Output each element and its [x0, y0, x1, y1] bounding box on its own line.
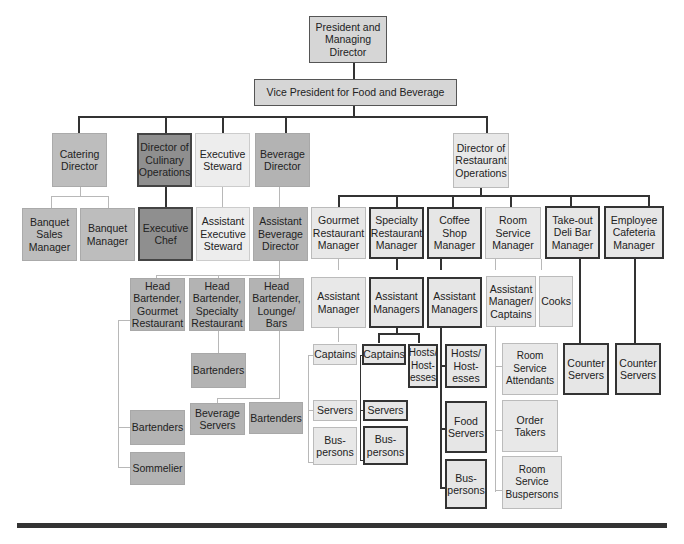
gourmet-buspersons-label: Bus-persons: [316, 434, 354, 459]
head-bartender-lounge-box: Head Bartender, Lounge/ Bars: [249, 278, 304, 331]
coffee-buspersons-box: Bus-persons: [445, 459, 487, 509]
cooks-box: Cooks: [539, 276, 573, 327]
gourmet-manager-label: Gourmet Restaurant Manager: [313, 214, 364, 252]
bartenders-specialty-box: Bartenders: [191, 353, 246, 388]
beverage-servers-box: Beverage Servers: [190, 403, 245, 435]
executive-chef-box: Executive Chef: [138, 207, 193, 261]
gourmet-captains-box: Captains: [313, 344, 357, 365]
cooks-label: Cooks: [541, 295, 571, 308]
gourmet-manager-box: Gourmet Restaurant Manager: [311, 207, 366, 259]
room-service-manager-label: Room Service Manager: [488, 214, 538, 252]
specialty-assistant-label: Assistant Managers: [373, 290, 420, 315]
catering-director-label: Catering Director: [55, 148, 104, 173]
coffee-shop-manager-box: Coffee Shop Manager: [427, 207, 482, 259]
coffee-food-servers-label: Food Servers: [448, 415, 484, 440]
org-chart: President and Managing Director Vice Pre…: [0, 0, 684, 544]
head-bartender-gourmet-box: Head Bartender, Gourmet Restaurant: [130, 278, 185, 331]
beverage-director-label: Beverage Director: [258, 148, 307, 173]
specialty-servers-label: Servers: [367, 404, 403, 417]
bartenders-specialty-label: Bartenders: [193, 364, 244, 377]
sommelier-box: Sommelier: [130, 452, 185, 485]
bartenders-lounge-box: Bartenders: [249, 402, 303, 434]
takeout-deli-manager-box: Take-out Deli Bar Manager: [545, 206, 600, 259]
beverage-servers-label: Beverage Servers: [193, 407, 242, 432]
restaurant-ops-director-box: Director of Restaurant Operations: [453, 133, 509, 188]
president-label: President and Managing Director: [312, 21, 384, 59]
specialty-buspersons-label: Bus-persons: [367, 433, 404, 458]
bartenders-lounge-label: Bartenders: [250, 412, 301, 425]
gourmet-assistant-label: Assistant Manager: [314, 290, 363, 315]
room-service-attendants-box: Room Service Attendants: [502, 343, 558, 395]
specialty-manager-label: Specialty Restaurant Manager: [371, 214, 422, 252]
room-service-manager-box: Room Service Manager: [485, 207, 541, 259]
order-takers-label: Order Takers: [505, 414, 555, 439]
coffee-shop-assistant-box: Assistant Managers: [427, 277, 482, 328]
catering-director-box: Catering Director: [52, 133, 107, 187]
specialty-servers-box: Servers: [363, 400, 408, 421]
specialty-buspersons-box: Bus-persons: [363, 426, 408, 465]
order-takers-box: Order Takers: [502, 400, 558, 452]
bartenders-gourmet-box: Bartenders: [130, 410, 185, 445]
coffee-hosts-label: Hosts/ Host-esses: [449, 347, 483, 385]
room-service-assistant-box: Assistant Manager/ Captains: [486, 276, 536, 327]
sommelier-label: Sommelier: [132, 462, 182, 475]
room-service-buspersons-label: Room Service Buspersons: [505, 464, 559, 502]
banquet-manager-box: Banquet Manager: [80, 208, 135, 261]
specialty-hosts-label: Hosts/ Host-esses: [409, 347, 437, 385]
banquet-sales-manager-label: Banquet Sales Manager: [25, 216, 74, 254]
specialty-captains-box: Captains: [362, 344, 406, 365]
beverage-director-box: Beverage Director: [255, 133, 310, 187]
banquet-manager-label: Banquet Manager: [83, 222, 132, 247]
cafeteria-counter-servers-box: Counter Servers: [615, 343, 661, 395]
head-bartender-lounge-label: Head Bartender, Lounge/ Bars: [252, 280, 301, 330]
coffee-food-servers-box: Food Servers: [445, 401, 487, 453]
coffee-buspersons-label: Bus-persons: [447, 472, 484, 497]
cafeteria-manager-label: Employee Cafeteria Manager: [608, 214, 660, 252]
bartenders-gourmet-label: Bartenders: [132, 421, 183, 434]
takeout-counter-servers-label: Counter Servers: [567, 357, 605, 382]
specialty-captains-label: Captains: [363, 348, 404, 361]
takeout-counter-servers-box: Counter Servers: [563, 343, 609, 395]
assistant-executive-steward-label: Assistant Executive Steward: [199, 215, 247, 253]
assistant-beverage-director-box: Assistant Beverage Director: [253, 207, 308, 261]
culinary-director-box: Director of Culinary Operations: [137, 133, 192, 187]
room-service-attendants-label: Room Service Attendants: [505, 350, 555, 388]
culinary-director-label: Director of Culinary Operations: [139, 141, 190, 179]
coffee-shop-assistant-label: Assistant Managers: [431, 290, 478, 315]
executive-steward-box: Executive Steward: [195, 133, 250, 187]
assistant-executive-steward-box: Assistant Executive Steward: [196, 207, 250, 261]
specialty-assistant-box: Assistant Managers: [369, 277, 424, 328]
coffee-shop-manager-label: Coffee Shop Manager: [431, 214, 478, 252]
vp-label: Vice President for Food and Beverage: [267, 86, 445, 99]
executive-chef-label: Executive Chef: [142, 222, 189, 247]
assistant-beverage-director-label: Assistant Beverage Director: [256, 215, 305, 253]
head-bartender-specialty-box: Head Bartender, Specialty Restaurant: [189, 278, 245, 331]
executive-steward-label: Executive Steward: [198, 148, 247, 173]
gourmet-servers-box: Servers: [313, 400, 357, 421]
head-bartender-gourmet-label: Head Bartender, Gourmet Restaurant: [132, 280, 183, 330]
gourmet-captains-label: Captains: [314, 348, 355, 361]
specialty-manager-box: Specialty Restaurant Manager: [369, 207, 424, 259]
banquet-sales-manager-box: Banquet Sales Manager: [22, 208, 77, 261]
specialty-hosts-box: Hosts/ Host-esses: [408, 344, 438, 388]
gourmet-assistant-box: Assistant Manager: [311, 277, 366, 328]
takeout-deli-manager-label: Take-out Deli Bar Manager: [549, 214, 596, 252]
restaurant-ops-director-label: Director of Restaurant Operations: [455, 142, 506, 180]
president-box: President and Managing Director: [309, 16, 387, 63]
room-service-assistant-label: Assistant Manager/ Captains: [489, 283, 533, 321]
bottom-rule-divider: [17, 523, 667, 528]
head-bartender-specialty-label: Head Bartender, Specialty Restaurant: [191, 280, 242, 330]
gourmet-servers-label: Servers: [317, 404, 353, 417]
vp-box: Vice President for Food and Beverage: [254, 79, 457, 106]
cafeteria-manager-box: Employee Cafeteria Manager: [604, 206, 664, 259]
room-service-buspersons-box: Room Service Buspersons: [502, 456, 562, 509]
cafeteria-counter-servers-label: Counter Servers: [619, 357, 657, 382]
gourmet-buspersons-box: Bus-persons: [313, 427, 357, 465]
coffee-hosts-box: Hosts/ Host-esses: [445, 344, 487, 388]
